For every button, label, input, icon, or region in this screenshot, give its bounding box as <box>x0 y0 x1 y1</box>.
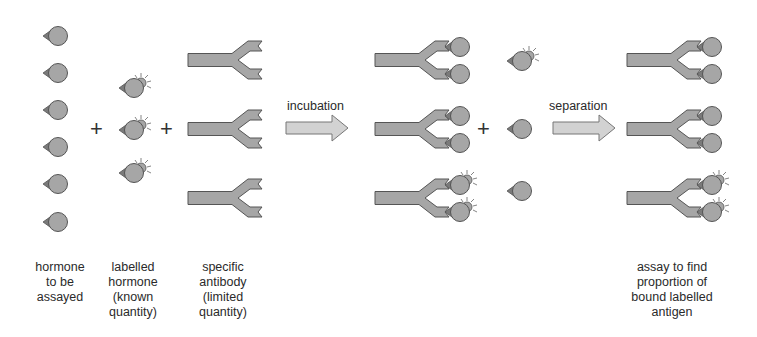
y-shaped-antibody-icon <box>375 179 449 217</box>
hormone-molecule-icon <box>43 27 68 46</box>
bound-hormone-icon <box>697 134 722 153</box>
labelled-hormone-column <box>119 73 151 183</box>
y-shaped-antibody-icon <box>627 41 701 79</box>
y-shaped-antibody-icon <box>375 110 449 148</box>
label-labelled-hormone: labelled hormone (known quantity) <box>102 260 164 320</box>
free-hormone-icon <box>507 182 532 201</box>
bound-hormone-icon <box>445 38 470 57</box>
bound-hormone-icon <box>445 65 470 84</box>
hormone-molecule-icon <box>43 175 68 194</box>
bound-labelled-hormone-icon <box>697 197 729 222</box>
plus-sign: + <box>90 118 103 140</box>
label-hormone-to-be-assayed: hormone to be assayed <box>30 260 90 305</box>
y-shaped-antibody-icon <box>627 179 701 217</box>
y-shaped-antibody-icon <box>627 110 701 148</box>
bound-hormone-icon <box>445 134 470 153</box>
hormone-molecule-icon <box>43 64 68 83</box>
bound-hormone-icon <box>697 107 722 126</box>
bound-labelled-hormone-icon <box>697 170 729 195</box>
separated-complexes <box>627 38 729 222</box>
bound-hormone-icon <box>697 65 722 84</box>
incubation-complexes <box>375 38 477 222</box>
incubation-label: incubation <box>287 99 344 113</box>
separation-arrow-icon <box>553 115 615 141</box>
bound-labelled-hormone-icon <box>445 197 477 222</box>
bound-hormone-icon <box>697 38 722 57</box>
antibody-column <box>188 41 262 217</box>
y-shaped-antibody-icon <box>188 110 262 148</box>
hormone-molecule-icon <box>43 213 68 232</box>
free-labelled-hormone-icon <box>507 46 539 71</box>
labelled-hormone-molecule-icon <box>119 115 151 140</box>
plus-sign: + <box>160 118 173 140</box>
hormone-molecule-icon <box>43 138 68 157</box>
label-assay-result: assay to find proportion of bound labell… <box>622 260 722 320</box>
free-molecules <box>507 46 539 201</box>
labelled-hormone-molecule-icon <box>119 73 151 98</box>
separation-label: separation <box>549 99 607 113</box>
plus-sign: + <box>477 118 490 140</box>
incubation-arrow-icon <box>286 115 348 141</box>
bound-labelled-hormone-icon <box>445 170 477 195</box>
y-shaped-antibody-icon <box>188 179 262 217</box>
y-shaped-antibody-icon <box>188 41 262 79</box>
bound-hormone-icon <box>445 107 470 126</box>
labelled-hormone-molecule-icon <box>119 158 151 183</box>
hormone-column <box>43 27 68 232</box>
label-specific-antibody: specific antibody (limited quantity) <box>190 260 256 320</box>
y-shaped-antibody-icon <box>375 41 449 79</box>
free-hormone-icon <box>507 120 532 139</box>
hormone-molecule-icon <box>43 101 68 120</box>
